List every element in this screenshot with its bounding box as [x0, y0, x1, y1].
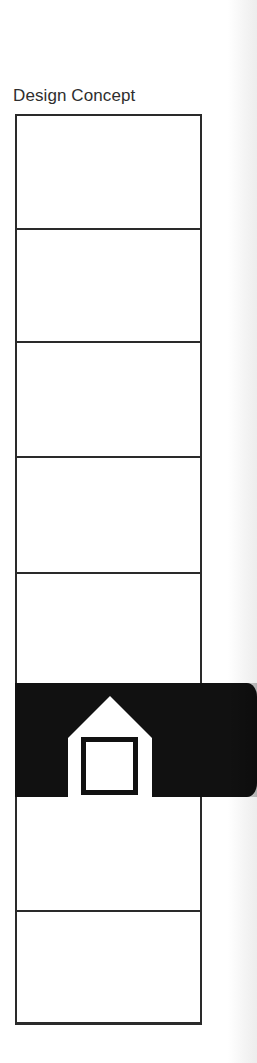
design-concept-page: Design Concept	[0, 0, 257, 1063]
house-icon	[0, 0, 257, 1063]
